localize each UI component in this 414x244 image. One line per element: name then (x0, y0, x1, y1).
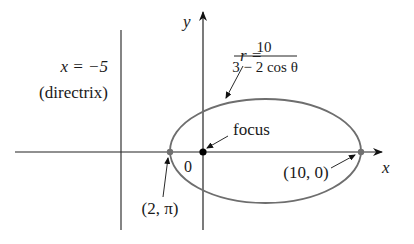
polar-ellipse-diagram: y x 0 x = −5 (directrix) r = 10 3 − 2 co… (0, 0, 414, 244)
directrix-equation: x = −5 (60, 57, 109, 76)
focus-label: focus (233, 120, 270, 139)
origin-label: 0 (184, 158, 192, 175)
vertex-left-point (167, 149, 173, 155)
focus-point (199, 148, 206, 155)
y-axis-label: y (181, 12, 191, 31)
focus-pointer-arrow (207, 136, 228, 148)
left-vertex-pointer-arrow (163, 158, 168, 197)
x-axis-label: x (381, 158, 390, 177)
equation-numerator: 10 (257, 39, 272, 55)
ellipse-curve (170, 99, 361, 203)
equation-denominator: 3 − 2 cos θ (232, 59, 298, 75)
right-vertex-pointer-arrow (331, 155, 355, 168)
directrix-caption: (directrix) (39, 83, 108, 102)
left-vertex-label: (2, π) (142, 199, 179, 218)
right-vertex-label: (10, 0) (283, 163, 328, 182)
vertex-right-point (358, 149, 364, 155)
